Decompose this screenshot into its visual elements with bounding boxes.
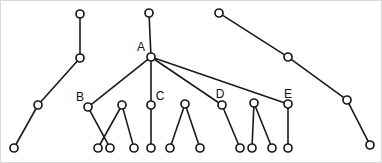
graph-edge xyxy=(252,107,254,144)
graph-node[interactable] xyxy=(196,144,204,152)
graph-edge xyxy=(90,111,108,145)
graph-node-e[interactable] xyxy=(284,100,292,108)
graph-node[interactable] xyxy=(181,100,189,108)
graph-edge xyxy=(222,15,284,55)
node-label-d: D xyxy=(216,87,225,101)
graph-node[interactable] xyxy=(284,53,292,61)
graph-node-c[interactable] xyxy=(147,101,155,109)
edges-layer xyxy=(16,15,368,144)
graph-node[interactable] xyxy=(130,144,138,152)
diagram-frame xyxy=(1,1,382,163)
node-label-b: B xyxy=(76,90,84,104)
graph-edge xyxy=(171,108,183,144)
graph-diagram: ABCDE xyxy=(0,0,382,163)
graph-node[interactable] xyxy=(366,141,374,149)
graph-node[interactable] xyxy=(94,144,102,152)
graph-node[interactable] xyxy=(76,54,84,62)
graph-edge xyxy=(100,108,120,144)
graph-node[interactable] xyxy=(76,10,84,18)
graph-edge xyxy=(186,108,198,144)
graph-node[interactable] xyxy=(284,144,292,152)
graph-node-d[interactable] xyxy=(218,101,226,109)
node-label-a: A xyxy=(137,40,145,54)
graph-edge xyxy=(349,104,368,142)
graph-node[interactable] xyxy=(343,96,351,104)
node-label-c: C xyxy=(156,89,165,103)
graph-node[interactable] xyxy=(215,9,223,17)
graph-edge xyxy=(291,59,344,97)
node-label-e: E xyxy=(284,87,292,101)
graph-edge xyxy=(41,61,78,102)
graph-edge xyxy=(123,109,133,144)
graph-edge xyxy=(16,108,36,144)
graph-edge xyxy=(149,17,151,53)
graph-node[interactable] xyxy=(236,144,244,152)
graph-node[interactable] xyxy=(248,144,256,152)
graph-node[interactable] xyxy=(250,99,258,107)
graph-node[interactable] xyxy=(145,9,153,17)
graph-node[interactable] xyxy=(10,144,18,152)
graph-node-a[interactable] xyxy=(147,53,155,61)
graph-edge xyxy=(224,109,239,145)
graph-edge xyxy=(91,59,148,104)
graph-node-b[interactable] xyxy=(84,103,92,111)
graph-node[interactable] xyxy=(268,144,276,152)
graph-edge xyxy=(255,107,270,145)
graph-node[interactable] xyxy=(34,101,42,109)
graph-node[interactable] xyxy=(118,101,126,109)
graph-canvas: ABCDE xyxy=(0,0,382,163)
graph-node[interactable] xyxy=(106,144,114,152)
graph-node[interactable] xyxy=(166,144,174,152)
graph-node[interactable] xyxy=(147,144,155,152)
